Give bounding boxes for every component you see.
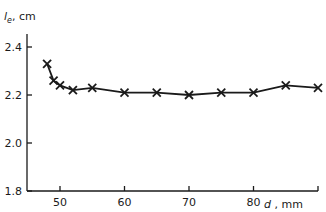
x-marker-icon	[56, 81, 64, 89]
x-marker-icon	[43, 60, 51, 68]
line-chart: 1.82.02.22.450607080 le, cm d , mm	[0, 0, 326, 212]
x-marker-icon	[50, 77, 58, 85]
x-tick-label: 70	[182, 196, 196, 209]
y-axis-title: le, cm	[4, 10, 36, 25]
y-tick-label: 2.0	[5, 137, 23, 150]
y-tick-label: 2.2	[5, 89, 23, 102]
x-tick-label: 80	[247, 196, 261, 209]
x-tick-label: 50	[53, 196, 67, 209]
y-tick-label: 2.4	[5, 41, 23, 54]
data-line	[47, 64, 318, 95]
x-axis-title: d , mm	[264, 198, 303, 211]
plot-area	[43, 60, 322, 99]
x-tick-label: 60	[118, 196, 132, 209]
y-tick-label: 1.8	[5, 185, 23, 198]
